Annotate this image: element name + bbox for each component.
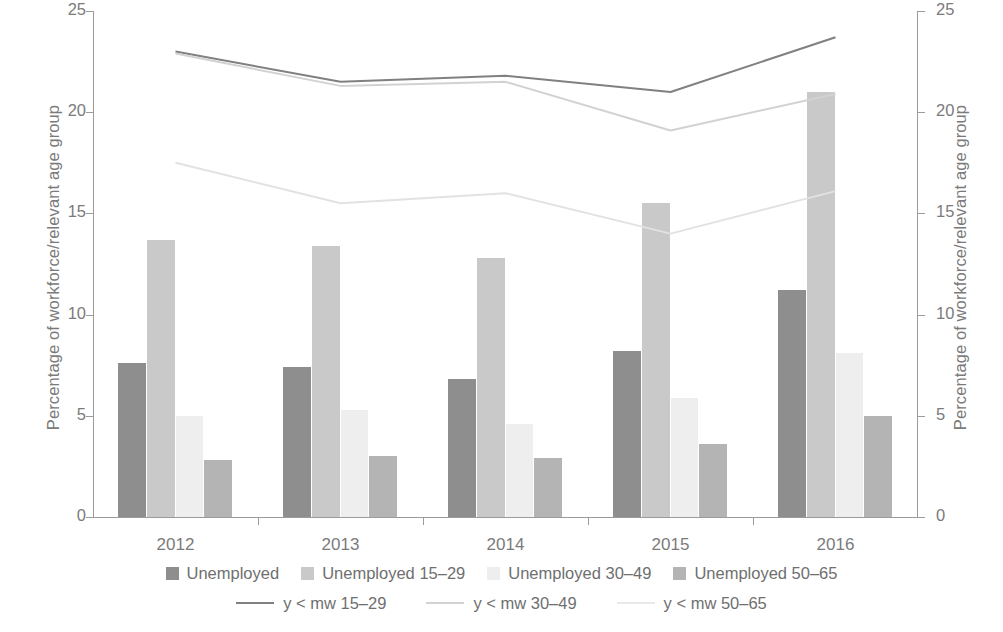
- y-tick-mark: [918, 112, 925, 113]
- legend-item[interactable]: Unemployed 15–29: [301, 564, 465, 583]
- line-series: [176, 37, 836, 92]
- line-series: [176, 54, 836, 131]
- legend-swatch-icon: [673, 567, 686, 580]
- x-tick-label: 2013: [281, 535, 401, 555]
- chart-container: Percentage of workforce/relevant age gro…: [0, 0, 1003, 632]
- legend-label: Unemployed 15–29: [322, 564, 465, 583]
- y-tick-label: 10: [936, 304, 996, 323]
- y-tick-mark: [918, 11, 925, 12]
- y-tick-mark: [918, 517, 925, 518]
- y-tick-label: 20: [936, 101, 996, 120]
- legend-swatch-icon: [166, 567, 179, 580]
- y-tick-mark: [918, 213, 925, 214]
- y-tick-label: 5: [26, 405, 86, 424]
- x-axis-line: [93, 517, 918, 518]
- legend-label: y < mw 50–65: [664, 594, 767, 613]
- legend-line-icon: [617, 602, 655, 604]
- legend-item[interactable]: y < mw 15–29: [236, 594, 386, 613]
- y-tick-mark: [918, 315, 925, 316]
- legend-item[interactable]: y < mw 30–49: [426, 594, 576, 613]
- y-tick-mark: [86, 112, 93, 113]
- legend-row-lines: y < mw 15–29y < mw 30–49y < mw 50–65: [0, 588, 1003, 618]
- y-tick-mark: [86, 416, 93, 417]
- y-tick-mark: [86, 213, 93, 214]
- y-tick-label: 15: [936, 202, 996, 221]
- y-tick-mark: [86, 517, 93, 518]
- y-tick-mark: [86, 11, 93, 12]
- x-tick-label: 2012: [116, 535, 236, 555]
- chart-legend: UnemployedUnemployed 15–29Unemployed 30–…: [0, 558, 1003, 618]
- x-tick-mark: [423, 517, 424, 525]
- legend-label: Unemployed 30–49: [508, 564, 651, 583]
- x-tick-mark: [588, 517, 589, 525]
- legend-item[interactable]: Unemployed: [166, 564, 280, 583]
- legend-row-bars: UnemployedUnemployed 15–29Unemployed 30–…: [0, 558, 1003, 588]
- plot-area: 0510152025 0510152025 201220132014201520…: [93, 11, 918, 517]
- y-tick-label: 10: [26, 304, 86, 323]
- legend-label: y < mw 30–49: [473, 594, 576, 613]
- y-tick-mark: [86, 315, 93, 316]
- legend-swatch-icon: [487, 567, 500, 580]
- x-tick-label: 2015: [611, 535, 731, 555]
- x-tick-label: 2016: [776, 535, 896, 555]
- line-series: [176, 163, 836, 234]
- legend-swatch-icon: [301, 567, 314, 580]
- x-tick-label: 2014: [446, 535, 566, 555]
- x-tick-mark: [753, 517, 754, 525]
- legend-item[interactable]: Unemployed 30–49: [487, 564, 651, 583]
- legend-item[interactable]: Unemployed 50–65: [673, 564, 837, 583]
- legend-label: Unemployed 50–65: [694, 564, 837, 583]
- y-tick-label: 5: [936, 405, 996, 424]
- y-tick-label: 25: [26, 0, 86, 19]
- y-tick-label: 0: [26, 506, 86, 525]
- legend-line-icon: [236, 602, 274, 604]
- y-tick-label: 25: [936, 0, 996, 19]
- y-tick-label: 15: [26, 202, 86, 221]
- x-tick-mark: [258, 517, 259, 525]
- lines-layer: [93, 11, 918, 517]
- y-tick-label: 20: [26, 101, 86, 120]
- y-tick-label: 0: [936, 506, 996, 525]
- legend-line-icon: [426, 602, 464, 604]
- legend-label: Unemployed: [187, 564, 280, 583]
- legend-label: y < mw 15–29: [283, 594, 386, 613]
- legend-item[interactable]: y < mw 50–65: [617, 594, 767, 613]
- y-tick-mark: [918, 416, 925, 417]
